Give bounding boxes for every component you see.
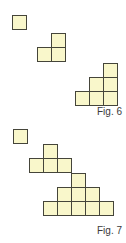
unit-square [43, 144, 58, 159]
unit-square [75, 91, 90, 106]
unit-square [51, 33, 66, 48]
unit-square [43, 201, 58, 216]
unit-square [57, 187, 72, 202]
figure-6-caption: Fig. 6 [62, 106, 122, 118]
unit-square [37, 47, 52, 62]
unit-square [13, 129, 28, 144]
unit-square [29, 158, 44, 173]
figure-7-caption: Fig. 7 [62, 225, 122, 237]
unit-square [103, 77, 118, 92]
unit-square [103, 91, 118, 106]
unit-square [71, 187, 86, 202]
unit-square [43, 158, 58, 173]
unit-square [85, 201, 100, 216]
unit-square [12, 15, 27, 30]
unit-square [89, 91, 104, 106]
unit-square [71, 201, 86, 216]
pattern-worksheet: Fig. 6 Fig. 7 [0, 0, 126, 243]
unit-square [71, 173, 86, 188]
unit-square [51, 47, 66, 62]
unit-square [99, 201, 114, 216]
unit-square [103, 63, 118, 78]
unit-square [85, 187, 100, 202]
unit-square [57, 158, 72, 173]
unit-square [57, 201, 72, 216]
unit-square [89, 77, 104, 92]
